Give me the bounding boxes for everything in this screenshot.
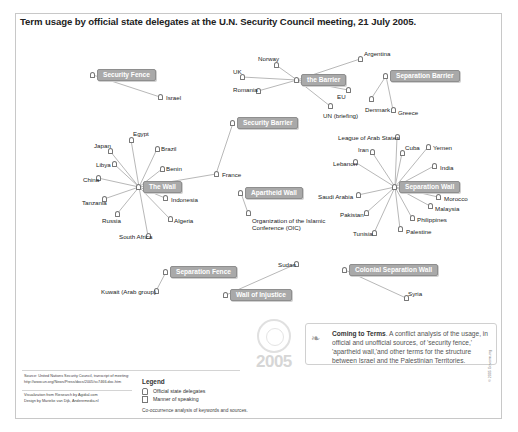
delegate-benin[interactable]: Benin — [166, 165, 182, 172]
delegate-icon — [214, 171, 219, 177]
term-hub-wall-of-injustice[interactable]: Wall of Injustice — [230, 289, 292, 301]
delegate-algeria[interactable]: Algeria — [174, 217, 193, 224]
delegate-un-briefing[interactable]: UN (briefing) — [323, 112, 358, 119]
delegate-syria[interactable]: Syria — [408, 290, 422, 297]
term-hub-separation-wall[interactable]: Separation Wall — [399, 181, 460, 193]
legend-item-delegates: Official state delegates — [142, 388, 205, 395]
un-emblem-icon — [257, 319, 291, 353]
delegate-libya[interactable]: Libya — [96, 161, 111, 168]
delegate-icon — [398, 226, 403, 232]
edge — [372, 152, 395, 187]
term-anchor-icon — [163, 269, 168, 275]
delegate-argentina[interactable]: Argentina — [364, 50, 391, 57]
delegate-norway[interactable]: Norway — [258, 55, 279, 62]
speaking-icon — [142, 396, 148, 403]
delegate-icon — [246, 210, 251, 216]
edge — [358, 187, 395, 195]
edge — [355, 162, 395, 187]
delegate-philippines[interactable]: Philippines — [417, 216, 447, 223]
delegate-iran[interactable]: Iran — [358, 146, 369, 153]
edge — [371, 76, 386, 99]
delegate-icon — [346, 87, 351, 93]
delegate-icon — [155, 146, 160, 152]
edge — [374, 187, 395, 233]
delegate-china[interactable]: China — [83, 176, 99, 183]
legend-note: Co-occurrence analysis of keywords and s… — [142, 408, 248, 413]
delegate-palestine[interactable]: Palestine — [406, 228, 431, 235]
delegate-cuba[interactable]: Cuba — [405, 144, 420, 151]
delegate-france[interactable]: France — [222, 171, 241, 178]
legend-title: Legend — [142, 378, 165, 385]
delegate-denmark[interactable]: Denmark — [365, 106, 390, 113]
term-hub-the-barrier[interactable]: the Barrier — [301, 74, 346, 86]
delegate-icon — [274, 62, 279, 68]
delegate-saudi-arabia[interactable]: Saudi Arabia — [318, 193, 353, 200]
delegate-icon — [364, 210, 369, 216]
source-url[interactable]: http://www.un.org/News/Press/docs/2005/s… — [24, 380, 121, 385]
delegate-brazil[interactable]: Brazil — [161, 145, 176, 152]
delegate-icon — [160, 166, 165, 172]
delegate-league-of-arab-states[interactable]: League of Arab States — [338, 134, 399, 141]
source-line-1: Source: United Nations Security Council,… — [24, 374, 129, 379]
edge — [395, 187, 400, 229]
delegate-kuwait-arab-group[interactable]: Kuwait (Arab group) — [101, 288, 156, 295]
term-hub-colonial-separation-wall[interactable]: Colonial Separation Wall — [349, 264, 438, 276]
delegate-romania[interactable]: Romania — [233, 86, 258, 93]
info-heading: Coming to Terms — [332, 330, 386, 337]
delegate-icon — [112, 161, 117, 167]
delegate-icon — [426, 144, 431, 150]
delegate-russia[interactable]: Russia — [102, 217, 121, 224]
delegate-sudan[interactable]: Sudan — [278, 261, 296, 268]
term-hub-separation-fence[interactable]: Separation Fence — [170, 266, 237, 278]
delegate-icon — [328, 103, 333, 109]
term-hub-security-fence[interactable]: Security Fence — [97, 69, 156, 81]
delegate-south-africa[interactable]: South Africa — [119, 233, 152, 240]
delegate-icon — [391, 107, 396, 113]
divider — [22, 390, 132, 391]
edge — [242, 77, 297, 80]
term-anchor-icon — [342, 267, 347, 273]
term-hub-apartheid-wall[interactable]: Apartheid Wall — [245, 187, 303, 199]
delegate-morocco[interactable]: Morocco — [444, 195, 468, 202]
term-hub-separation-barrier[interactable]: Separation Barrier — [390, 70, 460, 82]
delegate-tunisia[interactable]: Tunisia — [353, 230, 373, 237]
credit-line-1: Visualization from Riesearch by Agidial.… — [24, 393, 98, 398]
delegate-tanzania[interactable]: Tanzania — [82, 199, 107, 206]
delegate-icon — [369, 96, 374, 102]
term-hub-the-wall[interactable]: The Wall — [143, 181, 182, 193]
delegate-egypt[interactable]: Egypt — [133, 130, 149, 137]
edge — [131, 140, 139, 187]
term-hub-security-barrier[interactable]: Security Barrier — [237, 117, 298, 129]
delegate-organization-of-the-islamic-conference-oic[interactable]: Organization of the Islamic Conference (… — [252, 217, 330, 231]
delegate-eu[interactable]: EU — [337, 93, 346, 100]
info-box: ❧ Coming to Terms. A conflict analysis o… — [305, 323, 497, 365]
delegate-icon — [436, 194, 441, 200]
term-anchor-icon — [136, 184, 141, 190]
delegate-israel[interactable]: Israel — [166, 94, 181, 101]
logo-year: 2005 — [256, 352, 292, 372]
delegate-indonesia[interactable]: Indonesia — [171, 196, 198, 203]
term-anchor-icon — [383, 73, 388, 79]
delegate-icon — [168, 216, 173, 222]
delegate-pakistan[interactable]: Pakistan — [340, 211, 364, 218]
delegate-malaysia[interactable]: Malaysia — [435, 205, 459, 212]
copyright: © 2005 Govcom.org — [488, 350, 492, 382]
delegate-icon — [370, 149, 375, 155]
term-anchor-icon — [294, 77, 299, 83]
divider — [22, 370, 240, 371]
credit-line-2: Design by Marieke van Dijk, Anderemedia.… — [24, 399, 99, 404]
delegate-lebanon[interactable]: Lebanon — [333, 160, 357, 167]
delegate-icon — [410, 215, 415, 221]
delegate-yemen[interactable]: Yemen — [433, 144, 452, 151]
handshake-icon: ❧ — [311, 332, 320, 345]
delegate-icon — [158, 94, 163, 100]
delegate-japan[interactable]: Japan — [94, 142, 111, 149]
delegate-uk[interactable]: UK — [233, 68, 242, 75]
delegate-india[interactable]: India — [440, 164, 453, 171]
delegate-icon — [432, 163, 437, 169]
term-anchor-icon — [223, 292, 228, 298]
term-anchor-icon — [90, 72, 95, 78]
term-anchor-icon — [238, 190, 243, 196]
delegate-greece[interactable]: Greece — [398, 109, 418, 116]
delegate-icon — [428, 203, 433, 209]
